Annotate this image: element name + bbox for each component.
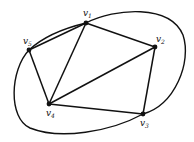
vertex-v3 (141, 112, 146, 117)
vertices-group (27, 21, 158, 117)
vertex-label-v1: v1 (83, 8, 92, 19)
edge-v2-v3 (143, 47, 155, 114)
graph-diagram: v1v2v3v4v5 (0, 0, 194, 142)
vertex-label-v2: v2 (156, 34, 165, 45)
outer-ellipse-curve (14, 12, 185, 134)
edge-v1-v4 (49, 23, 86, 104)
vertex-v1 (84, 21, 89, 26)
vertex-label-v3: v3 (140, 118, 149, 129)
vertex-v4 (47, 102, 52, 107)
vertex-label-v4: v4 (46, 108, 55, 119)
edge-v4-v5 (29, 50, 49, 104)
edge-v1-v5 (29, 23, 86, 50)
edge-v1-v2 (86, 23, 155, 47)
edge-v2-v4 (49, 47, 155, 104)
vertex-v5 (27, 48, 32, 53)
vertex-label-v5: v5 (23, 36, 32, 47)
edge-v3-v4 (49, 104, 143, 114)
vertex-v2 (153, 45, 158, 50)
